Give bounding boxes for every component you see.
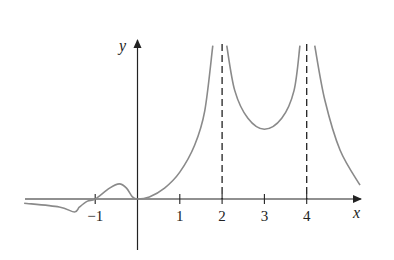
- x-tick-label: 2: [218, 208, 226, 224]
- x-tick-label: 1: [176, 208, 184, 224]
- function-graph: −11234 y x: [0, 0, 394, 260]
- curve-segment: [24, 46, 213, 212]
- x-tick-label: 4: [303, 208, 311, 224]
- x-tick-label: 3: [261, 208, 269, 224]
- curve-segment: [227, 46, 300, 130]
- curve-segments: [24, 46, 360, 212]
- x-axis-label: x: [352, 204, 360, 221]
- x-tick-label: −1: [87, 208, 103, 224]
- curve-segment: [315, 46, 360, 185]
- y-axis-label: y: [117, 37, 127, 55]
- vertical-asymptotes: [222, 44, 307, 199]
